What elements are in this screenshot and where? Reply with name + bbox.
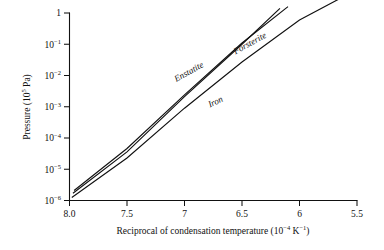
- x-axis-tick-label: 5.5: [351, 209, 363, 219]
- x-axis-tick-label: 8.0: [64, 209, 76, 219]
- pressure-vs-reciprocal-temperature-chart: 110−110−210−310−410−510−6 8.07.576.565.5…: [0, 0, 384, 250]
- x-axis-tick-label: 7.5: [121, 209, 133, 219]
- y-axis-tick-label: 1: [56, 8, 61, 18]
- x-axis-tick-label: 6.5: [236, 209, 248, 219]
- y-axis-title: Pressure (105 Pa): [20, 74, 33, 140]
- x-axis-title: Reciprocal of condensation temperature (…: [117, 224, 310, 237]
- x-axis-tick-label: 7: [182, 209, 187, 219]
- x-axis-tick-label: 6: [297, 209, 302, 219]
